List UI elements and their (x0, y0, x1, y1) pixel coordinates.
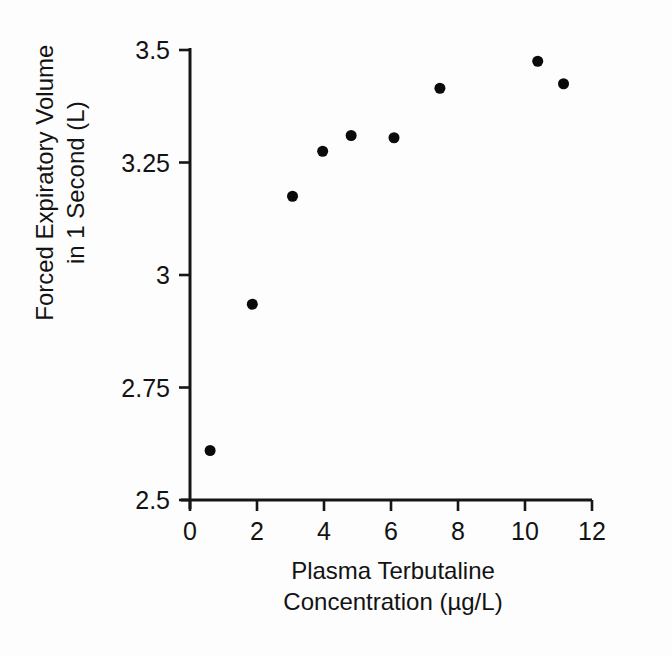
data-point-3 (317, 146, 328, 157)
y-tick-label-2: 3 (156, 263, 170, 288)
tick-marks-group (179, 50, 592, 511)
x-tick-label-5: 10 (511, 519, 539, 544)
y-tick-label-1: 2.75 (121, 375, 170, 400)
data-point-1 (247, 299, 258, 310)
x-tick-label-0: 0 (183, 519, 197, 544)
data-point-4 (346, 130, 357, 141)
x-tick-label-6: 12 (578, 519, 606, 544)
data-points-group (205, 56, 569, 456)
data-point-0 (205, 445, 216, 456)
x-axis-title: Plasma Terbutaline Concentration (µg/L) (188, 556, 598, 617)
y-axis-title: Forced Expiratory Volume in 1 Second (L) (30, 18, 91, 348)
x-tick-label-3: 6 (384, 519, 398, 544)
data-point-8 (558, 78, 569, 89)
y-tick-label-0: 2.5 (135, 488, 170, 513)
axes-group (181, 48, 592, 509)
y-axis-title-line-2: in 1 Second (L) (61, 18, 92, 348)
x-tick-label-2: 4 (317, 519, 331, 544)
data-point-2 (287, 191, 298, 202)
y-axis-title-line-1: Forced Expiratory Volume (30, 18, 61, 348)
x-axis-title-line-2: Concentration (µg/L) (188, 587, 598, 618)
x-tick-label-4: 8 (451, 519, 465, 544)
data-point-5 (389, 132, 400, 143)
data-point-6 (434, 83, 445, 94)
x-tick-label-1: 2 (250, 519, 264, 544)
x-axis-title-line-1: Plasma Terbutaline (188, 556, 598, 587)
data-point-7 (532, 56, 543, 67)
y-tick-label-3: 3.25 (121, 150, 170, 175)
y-tick-label-4: 3.5 (135, 38, 170, 63)
scatter-plot-figure: 2.52.7533.253.5 024681012 Forced Expirat… (0, 0, 672, 656)
